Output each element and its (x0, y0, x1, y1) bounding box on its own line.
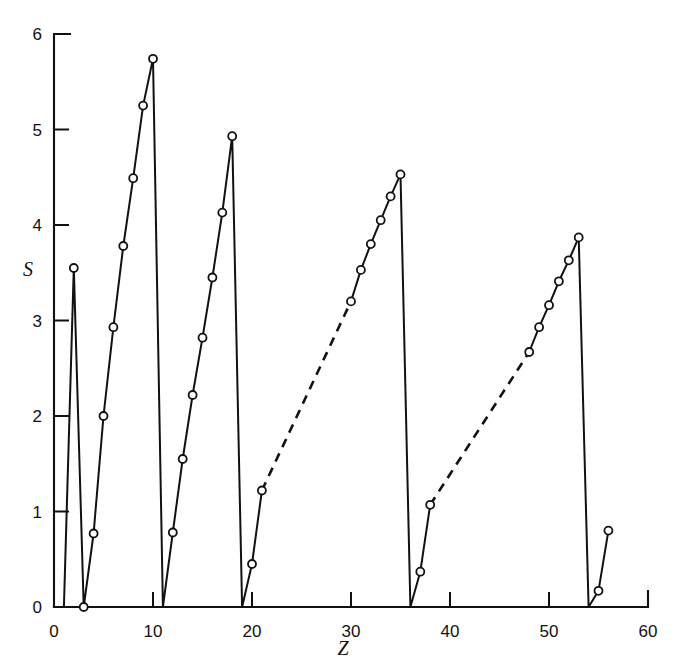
data-point-marker (70, 264, 78, 272)
data-point-marker (149, 55, 157, 63)
data-point-marker (525, 348, 533, 356)
line-chart: 0123456 0102030405060 S Z (0, 0, 681, 668)
data-point-marker (565, 256, 573, 264)
data-point-marker (397, 170, 405, 178)
data-point-marker (100, 412, 108, 420)
y-tick-label: 3 (33, 312, 42, 331)
data-point-marker (90, 530, 98, 538)
y-tick-label: 4 (33, 216, 42, 235)
data-point-marker (367, 240, 375, 248)
data-point-marker (357, 266, 365, 274)
x-axis-title: Z (337, 637, 349, 659)
data-point-marker (169, 529, 177, 537)
data-point-marker (545, 301, 553, 309)
y-tick-label: 6 (33, 25, 42, 44)
data-series-lines (64, 59, 609, 607)
data-point-marker (416, 568, 424, 576)
y-axis-ticks (54, 34, 69, 512)
x-axis-ticks (153, 592, 549, 607)
data-line-dashed (430, 352, 529, 505)
x-tick-label: 10 (144, 622, 163, 641)
data-point-marker (555, 277, 563, 285)
data-point-marker (109, 323, 117, 331)
y-tick-label: 5 (33, 121, 42, 140)
data-point-marker (426, 501, 434, 509)
y-axis-tick-labels: 0123456 (33, 25, 42, 617)
data-point-marker (377, 216, 385, 224)
data-point-marker (189, 391, 197, 399)
y-tick-label: 0 (33, 598, 42, 617)
data-point-marker (347, 297, 355, 305)
y-tick-label: 2 (33, 407, 42, 426)
data-point-marker (535, 323, 543, 331)
data-point-marker (129, 174, 137, 182)
y-axis-title: S (23, 258, 33, 280)
data-point-marker (258, 487, 266, 495)
data-point-marker (208, 274, 216, 282)
data-point-marker (80, 603, 88, 611)
x-tick-label: 50 (540, 622, 559, 641)
data-point-marker (179, 455, 187, 463)
chart-figure: 0123456 0102030405060 S Z (0, 0, 681, 668)
data-series-markers (70, 55, 613, 611)
data-line-dashed (262, 301, 351, 490)
x-tick-label: 20 (243, 622, 262, 641)
data-point-marker (199, 334, 207, 342)
y-tick-label: 1 (33, 503, 42, 522)
data-line-solid (529, 237, 608, 607)
data-point-marker (387, 192, 395, 200)
data-point-marker (228, 132, 236, 140)
x-tick-label: 60 (639, 622, 658, 641)
data-point-marker (595, 587, 603, 595)
x-axis-tick-labels: 0102030405060 (49, 622, 657, 641)
data-point-marker (604, 527, 612, 535)
data-point-marker (139, 102, 147, 110)
x-tick-label: 40 (441, 622, 460, 641)
data-point-marker (218, 209, 226, 217)
data-point-marker (248, 560, 256, 568)
data-point-marker (119, 242, 127, 250)
data-point-marker (575, 233, 583, 241)
x-tick-label: 0 (49, 622, 58, 641)
data-line-solid (351, 174, 430, 607)
